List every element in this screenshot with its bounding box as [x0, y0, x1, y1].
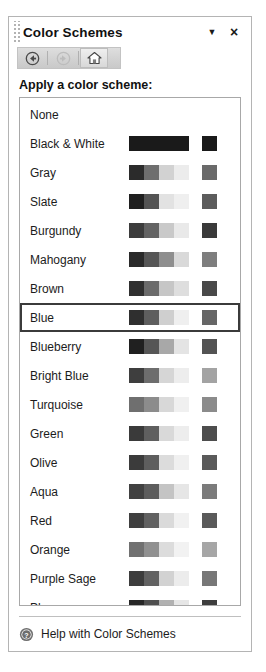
scheme-row[interactable]: Turquoise: [20, 390, 240, 419]
scheme-color-cell: [159, 136, 174, 151]
scheme-row[interactable]: Red: [20, 506, 240, 535]
swatch-tail-spacer: [217, 600, 234, 606]
scheme-color-cell: [159, 223, 174, 238]
scheme-color-strip: [129, 339, 189, 354]
scheme-color-cell: [174, 252, 189, 267]
home-icon[interactable]: [80, 48, 108, 68]
close-icon[interactable]: ×: [225, 22, 243, 42]
scheme-row[interactable]: Gray: [20, 158, 240, 187]
scheme-color-cell: [129, 252, 144, 267]
scheme-label: Purple Sage: [30, 572, 129, 586]
scheme-color-cell: [174, 513, 189, 528]
scheme-color-cell: [159, 339, 174, 354]
scheme-row[interactable]: Orange: [20, 535, 240, 564]
scheme-swatches: [129, 136, 234, 151]
scheme-label: Red: [30, 514, 129, 528]
swatch-gap: [189, 136, 202, 151]
scheme-row[interactable]: Bright Blue: [20, 361, 240, 390]
scheme-row[interactable]: Aqua: [20, 477, 240, 506]
scheme-label: Turquoise: [30, 398, 129, 412]
swatch-tail-spacer: [217, 455, 234, 470]
swatch-gap: [189, 368, 202, 383]
swatch-gap: [189, 165, 202, 180]
scheme-color-cell: [159, 600, 174, 606]
swatch-tail-spacer: [217, 194, 234, 209]
scheme-color-strip: [129, 397, 189, 412]
scheme-row[interactable]: Blue: [20, 303, 240, 332]
help-link[interactable]: ? Help with Color Schemes: [9, 617, 251, 651]
scheme-color-cell: [174, 571, 189, 586]
scheme-swatches: [129, 368, 234, 383]
scheme-color-cell: [174, 194, 189, 209]
scheme-color-cell: [144, 194, 159, 209]
scheme-label: Orange: [30, 543, 129, 557]
scheme-label: Aqua: [30, 485, 129, 499]
scheme-color-cell: [174, 542, 189, 557]
scheme-color-cell: [159, 571, 174, 586]
swatch-gap: [189, 397, 202, 412]
scheme-row[interactable]: None: [20, 100, 240, 129]
scheme-row[interactable]: Mahogany: [20, 245, 240, 274]
swatch-gap: [189, 252, 202, 267]
scheme-row[interactable]: Burgundy: [20, 216, 240, 245]
scheme-row[interactable]: Brown: [20, 274, 240, 303]
swatch-tail-spacer: [217, 223, 234, 238]
scheme-color-cell: [129, 136, 144, 151]
task-pane-title: Color Schemes: [23, 25, 203, 40]
scheme-color-cell: [129, 397, 144, 412]
scheme-label: Brown: [30, 282, 129, 296]
scheme-row[interactable]: Slate: [20, 187, 240, 216]
swatch-gap: [189, 542, 202, 557]
scheme-color-cell: [159, 513, 174, 528]
scheme-color-strip: [129, 600, 189, 606]
scheme-color-cell: [174, 165, 189, 180]
scheme-accent-swatch: [202, 571, 217, 586]
scheme-color-cell: [129, 368, 144, 383]
scheme-color-cell: [129, 513, 144, 528]
color-schemes-task-pane: Color Schemes ▼ ×: [8, 16, 252, 652]
scheme-label: Blueberry: [30, 340, 129, 354]
scheme-color-cell: [174, 397, 189, 412]
scheme-row[interactable]: Green: [20, 419, 240, 448]
scheme-row[interactable]: Blueberry: [20, 332, 240, 361]
scheme-color-cell: [159, 542, 174, 557]
scheme-color-cell: [144, 542, 159, 557]
swatch-tail-spacer: [217, 513, 234, 528]
scheme-row[interactable]: Olive: [20, 448, 240, 477]
drag-grip-icon[interactable]: [13, 21, 20, 43]
forward-arrow-icon[interactable]: [49, 48, 77, 68]
scheme-label: Slate: [30, 195, 129, 209]
swatch-tail-spacer: [217, 368, 234, 383]
scheme-color-cell: [129, 542, 144, 557]
scheme-accent-swatch: [202, 136, 217, 151]
scheme-accent-swatch: [202, 426, 217, 441]
scheme-color-cell: [144, 600, 159, 606]
scheme-accent-swatch: [202, 281, 217, 296]
scheme-color-cell: [144, 484, 159, 499]
swatch-gap: [189, 194, 202, 209]
swatch-gap: [189, 339, 202, 354]
scheme-swatches: [129, 600, 234, 606]
scheme-color-cell: [159, 368, 174, 383]
scheme-color-cell: [129, 310, 144, 325]
scheme-color-cell: [129, 339, 144, 354]
swatch-gap: [189, 281, 202, 296]
scheme-row[interactable]: Purple Sage: [20, 564, 240, 593]
scheme-color-strip: [129, 513, 189, 528]
scheme-row[interactable]: Plum: [20, 593, 240, 606]
help-link-label: Help with Color Schemes: [41, 627, 176, 641]
scheme-accent-swatch: [202, 165, 217, 180]
scheme-accent-swatch: [202, 194, 217, 209]
chevron-down-icon[interactable]: ▼: [203, 22, 221, 42]
scheme-swatches: [129, 513, 234, 528]
back-arrow-icon[interactable]: [18, 48, 46, 68]
scheme-color-cell: [174, 426, 189, 441]
scheme-color-cell: [174, 310, 189, 325]
scheme-label: Plum: [30, 601, 129, 607]
scheme-color-strip: [129, 281, 189, 296]
scheme-row[interactable]: Black & White: [20, 129, 240, 158]
scheme-color-cell: [129, 600, 144, 606]
scheme-color-strip: [129, 165, 189, 180]
color-scheme-list[interactable]: NoneBlack & WhiteGraySlateBurgundyMahoga…: [19, 97, 241, 606]
task-pane-toolbar: [17, 47, 121, 69]
